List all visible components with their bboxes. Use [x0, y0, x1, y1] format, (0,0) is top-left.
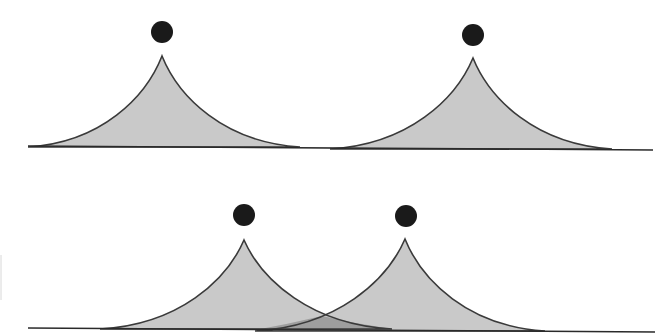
top-panel — [28, 21, 653, 150]
top-right-dot — [462, 24, 484, 46]
diagram-canvas — [0, 0, 669, 335]
top-left-peak-fill — [28, 56, 300, 147]
bottom-panel — [28, 204, 655, 332]
top-right-peak-fill — [330, 58, 612, 149]
bottom-left-dot — [233, 204, 255, 226]
cusp-peaks-diagram — [0, 0, 669, 335]
top-left-dot — [151, 21, 173, 43]
bottom-right-dot — [395, 205, 417, 227]
